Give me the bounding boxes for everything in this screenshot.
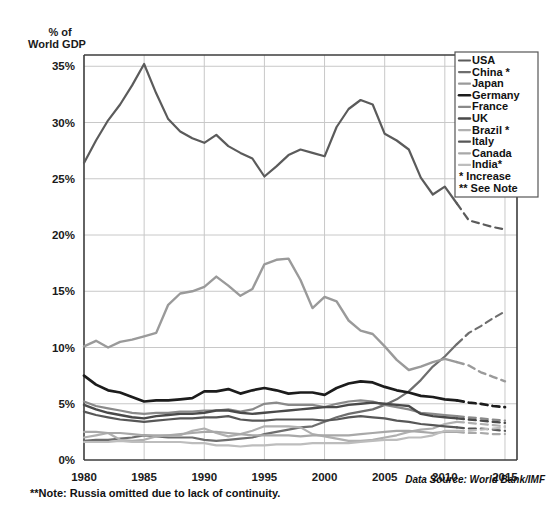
series-line-usa [84,64,457,204]
y-axis-title-line2: World GDP [28,38,86,50]
legend-label-usa[interactable]: USA [472,54,495,66]
y-tick-label: 10% [52,342,75,354]
x-tick-label: 1980 [71,471,97,483]
x-tick-label: 1995 [252,471,278,483]
legend-label-germany[interactable]: Germany [472,89,521,101]
chart-canvas: % ofWorld GDP0%5%10%15%20%25%30%35%19801… [0,0,560,526]
x-tick-label: 2005 [372,471,398,483]
x-tick-label: 1990 [191,471,217,483]
legend-footnote-10: * Increase [459,170,511,182]
gdp-share-chart: % ofWorld GDP0%5%10%15%20%25%30%35%19801… [0,0,560,526]
series-projection-china [457,312,505,345]
legend-label-japan[interactable]: Japan [472,77,504,89]
legend-footnote-11: ** See Note [459,182,518,194]
legend-label-canada[interactable]: Canada [472,147,513,159]
series-projection-japan [457,362,505,381]
series-line-japan [84,259,457,370]
legend-label-brazil[interactable]: Brazil * [472,124,510,136]
x-tick-label: 1985 [131,471,157,483]
y-tick-label: 25% [52,173,75,185]
y-tick-label: 35% [52,60,75,72]
series-line-france [84,400,457,416]
y-tick-label: 15% [52,285,75,297]
x-tick-label: 2000 [312,471,338,483]
legend-label-uk[interactable]: UK [472,112,488,124]
legend-label-india[interactable]: India* [472,158,503,170]
series-projection-usa [457,204,505,230]
data-source-label: Data Source: World Bank/IMF [405,474,546,485]
y-tick-label: 20% [52,229,75,241]
footer-note: **Note: Russia omitted due to lack of co… [30,487,280,499]
legend-label-china[interactable]: China * [472,66,511,78]
y-tick-label: 0% [58,454,75,466]
series-line-uk [84,403,457,419]
legend-label-italy[interactable]: Italy [472,135,495,147]
y-axis-title-line1: % of [48,26,72,38]
series-projection-canada [457,432,505,434]
legend-label-france[interactable]: France [472,100,508,112]
y-tick-label: 5% [58,398,75,410]
y-tick-label: 30% [52,117,75,129]
